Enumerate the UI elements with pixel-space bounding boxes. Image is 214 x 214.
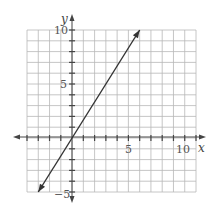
y-tick-label-neg5: −5 (54, 188, 70, 201)
x-tick-label-5: 5 (125, 143, 132, 156)
y-axis-arrow-down-icon (70, 196, 75, 203)
x-axis-arrow-left-icon (13, 135, 20, 140)
y-axis-arrow-up-icon (70, 14, 75, 21)
line-arrow-up-icon (133, 30, 140, 38)
x-tick-label-10: 10 (176, 143, 190, 156)
coordinate-plane: y x 10 5 −5 5 10 (0, 0, 214, 214)
grid (27, 30, 196, 192)
data-line (38, 30, 139, 192)
y-tick-label-10: 10 (54, 24, 68, 37)
line-arrow-down-icon (38, 184, 45, 192)
x-axis-label: x (198, 141, 205, 155)
x-axis-arrow-right-icon (199, 135, 206, 140)
y-tick-label-5: 5 (60, 78, 67, 91)
axis-ticks (27, 30, 196, 192)
